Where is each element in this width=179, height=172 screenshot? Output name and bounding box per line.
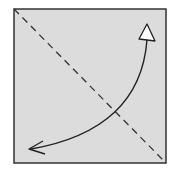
origami-diagram: [0, 0, 179, 172]
